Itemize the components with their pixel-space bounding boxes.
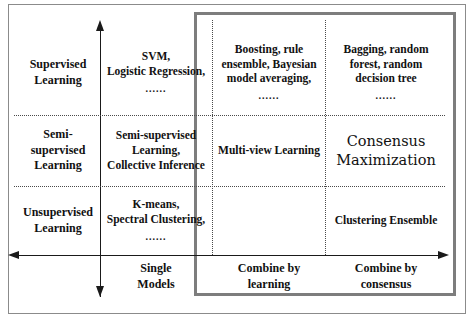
axis-label-combine-learning-line1: Combine by: [238, 261, 300, 275]
axis-label-combine-consensus-line2: consensus: [361, 277, 412, 291]
axis-label-single-models-line2: Models: [137, 277, 174, 291]
axis-label-single-models: Single Models: [102, 259, 210, 295]
cell-semi-single-line1: Semi-supervised: [116, 129, 197, 141]
cell-unsupervised-single-ellipsis: ......: [102, 231, 210, 244]
cell-supervised-combine-by-consensus: Bagging, random forest, random decision …: [327, 30, 445, 115]
cell-supervised-single-line2: Logistic Regression,: [107, 65, 205, 77]
cell-semi-supervised-combine-by-learning: Multi-view Learning: [214, 115, 324, 186]
row-label-semi-supervised-learning: Semi- supervised Learning: [16, 115, 100, 186]
cell-unsupervised-single-line1: K-means,: [133, 198, 180, 210]
row-label-unsupervised-line2: Learning: [34, 221, 81, 235]
cell-supervised-single-models: SVM, Logistic Regression, ......: [102, 30, 210, 115]
cell-semi-supervised-single-models: Semi-supervised Learning, Collective Inf…: [102, 115, 210, 186]
column-divider-single-learning: [212, 20, 213, 255]
vertical-axis-line: [100, 27, 101, 297]
row-label-unsupervised-line1: Unsupervised: [23, 205, 93, 219]
cell-semi-supervised-combine-by-consensus: Consensus Maximization: [327, 115, 445, 186]
row-label-semi-line1: Semi-: [43, 127, 72, 141]
cell-unsupervised-single-line2: Spectral Clustering,: [107, 213, 205, 225]
cell-semi-learning-line1: Multi-view Learning: [218, 144, 320, 156]
cell-supervised-consensus-line3: decision tree: [355, 72, 416, 84]
row-label-supervised-line1: Supervised: [30, 57, 87, 71]
axis-label-combine-consensus-line1: Combine by: [355, 261, 417, 275]
axis-label-combine-by-consensus: Combine by consensus: [327, 259, 445, 295]
cell-supervised-learning-ellipsis: ......: [214, 90, 324, 103]
axis-label-combine-learning-line2: learning: [248, 277, 291, 291]
cell-supervised-combine-by-learning: Boosting, rule ensemble, Bayesian model …: [214, 30, 324, 115]
axis-label-combine-by-learning: Combine by learning: [214, 259, 324, 295]
cell-supervised-learning-line1: Boosting, rule: [235, 43, 303, 55]
cell-unsupervised-consensus-line1: Clustering Ensemble: [335, 214, 438, 226]
cell-semi-single-line2: Learning,: [132, 144, 180, 156]
cell-semi-consensus-line2: Maximization: [336, 152, 436, 168]
cell-supervised-consensus-ellipsis: ......: [327, 90, 445, 103]
axis-label-single-models-line1: Single: [140, 261, 171, 275]
cell-unsupervised-combine-by-learning: [214, 186, 324, 255]
row-label-supervised-line2: Learning: [34, 73, 81, 87]
row-label-unsupervised-learning: Unsupervised Learning: [16, 186, 100, 255]
row-label-supervised-learning: Supervised Learning: [16, 30, 100, 115]
row-label-semi-line2: supervised: [31, 143, 86, 157]
cell-supervised-single-ellipsis: ......: [102, 83, 210, 96]
cell-supervised-consensus-line1: Bagging, random: [344, 43, 429, 55]
cell-semi-single-line3: Collective Inference: [107, 159, 205, 171]
cell-supervised-single-line1: SVM,: [142, 50, 170, 62]
row-label-semi-line3: Learning: [34, 158, 81, 172]
taxonomy-figure: Supervised Learning Semi- supervised Lea…: [0, 0, 475, 329]
horizontal-axis-line: [14, 255, 445, 256]
column-divider-learning-consensus: [325, 20, 326, 255]
cell-supervised-learning-line3: model averaging,: [227, 72, 311, 84]
cell-supervised-consensus-line2: forest, random: [350, 58, 423, 70]
cell-unsupervised-combine-by-consensus: Clustering Ensemble: [327, 186, 445, 255]
cell-semi-consensus-line1: Consensus: [347, 133, 426, 149]
cell-supervised-learning-line2: ensemble, Bayesian: [221, 58, 316, 70]
cell-unsupervised-single-models: K-means, Spectral Clustering, ......: [102, 186, 210, 255]
